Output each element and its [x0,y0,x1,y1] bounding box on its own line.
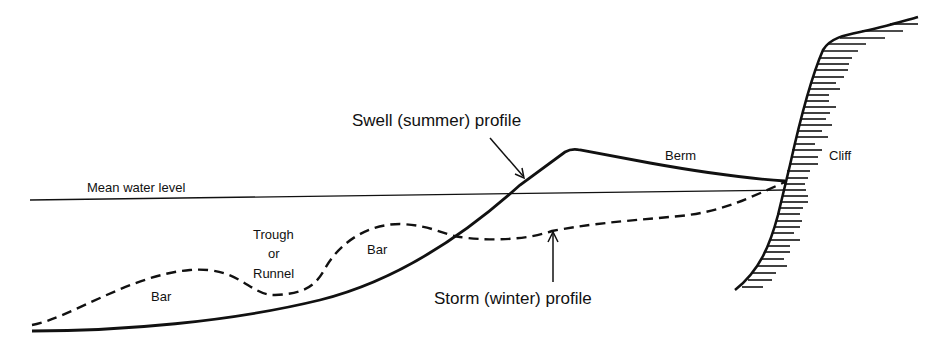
bar-inshore-label: Bar [367,242,388,257]
beach-profile-diagram: Mean water level Swell (summer) profile … [0,0,942,349]
storm-profile-label: Storm (winter) profile [434,289,592,308]
storm-profile-line [32,182,785,325]
swell-profile-line [32,149,785,331]
trough-label-line2: or [268,246,280,261]
storm-profile-arrow [548,232,558,282]
trough-label-line1: Trough [253,227,294,242]
mean-water-level-label: Mean water level [87,180,185,195]
cliff-label: Cliff [829,148,852,163]
berm-label: Berm [665,148,696,163]
swell-profile-arrow [490,138,524,178]
bar-offshore-label: Bar [151,289,172,304]
trough-label-line3: Runnel [253,266,294,281]
swell-profile-label: Swell (summer) profile [352,111,521,130]
